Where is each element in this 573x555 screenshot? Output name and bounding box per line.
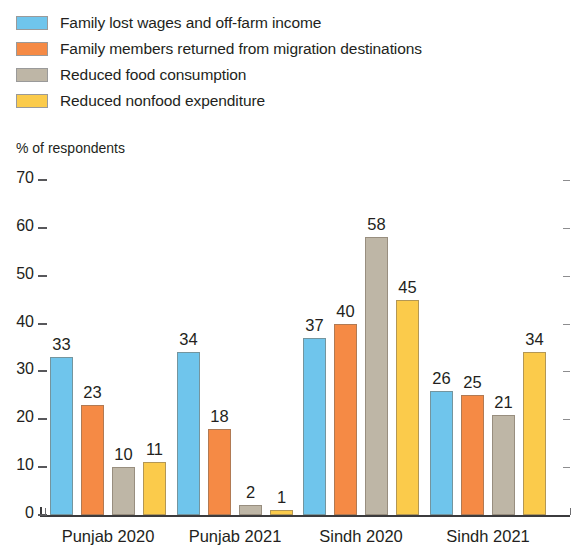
bar-value-label: 45 (387, 278, 428, 297)
bar-value-label: 34 (168, 330, 209, 349)
bar-value-label: 11 (134, 440, 175, 459)
right-axis-tick-mark (563, 419, 570, 420)
y-axis-tick-label: 60 (0, 217, 34, 235)
bar (523, 352, 546, 515)
bar (461, 395, 484, 515)
bar (430, 391, 453, 515)
bar-value-label: 21 (483, 393, 524, 412)
y-axis-tick-label: 0 (0, 504, 34, 522)
right-axis-tick-mark (563, 371, 570, 372)
bar (303, 338, 326, 515)
right-axis-tick-mark (563, 324, 570, 325)
x-axis-group-separator-tick (45, 508, 46, 515)
bar (81, 405, 104, 515)
y-axis-tick-mark (38, 179, 47, 181)
bar-value-label: 40 (325, 302, 366, 321)
bar (208, 429, 231, 515)
bar-value-label: 58 (356, 215, 397, 234)
bar (396, 300, 419, 515)
bar (334, 324, 357, 515)
y-axis-tick-label: 50 (0, 265, 34, 283)
x-axis-category-label: Sindh 2021 (400, 527, 573, 546)
y-axis-tick-mark (38, 466, 47, 468)
bar-value-label: 23 (72, 383, 113, 402)
bar (365, 237, 388, 515)
x-axis-group-separator-tick (570, 508, 571, 515)
right-axis-tick-mark (563, 180, 570, 181)
plot-area: 70605040302010033231011Punjab 2020341821… (0, 0, 573, 555)
bar (143, 462, 166, 515)
y-axis-tick-label: 30 (0, 360, 34, 378)
bar-value-label: 34 (514, 330, 555, 349)
y-axis-tick-label: 70 (0, 169, 34, 187)
bar (112, 467, 135, 515)
y-axis-tick-label: 40 (0, 313, 34, 331)
bar (492, 415, 515, 516)
bar (50, 357, 73, 515)
bar-value-label: 18 (199, 407, 240, 426)
x-axis-baseline (40, 515, 570, 517)
y-axis-tick-mark (38, 227, 47, 229)
right-axis-tick-mark (563, 276, 570, 277)
right-axis-tick-mark (563, 467, 570, 468)
bar (239, 505, 262, 515)
bar-value-label: 25 (452, 373, 493, 392)
bar-value-label: 1 (261, 488, 302, 507)
y-axis-tick-label: 20 (0, 408, 34, 426)
y-axis-tick-label: 10 (0, 456, 34, 474)
bar (270, 510, 293, 515)
bar (177, 352, 200, 515)
y-axis-tick-mark (38, 418, 47, 420)
y-axis-tick-mark (38, 370, 47, 372)
y-axis-tick-mark (38, 323, 47, 325)
y-axis-tick-mark (38, 275, 47, 277)
right-axis-tick-mark (563, 228, 570, 229)
bar-value-label: 33 (41, 335, 82, 354)
chart-page: Family lost wages and off-farm income Fa… (0, 0, 573, 555)
